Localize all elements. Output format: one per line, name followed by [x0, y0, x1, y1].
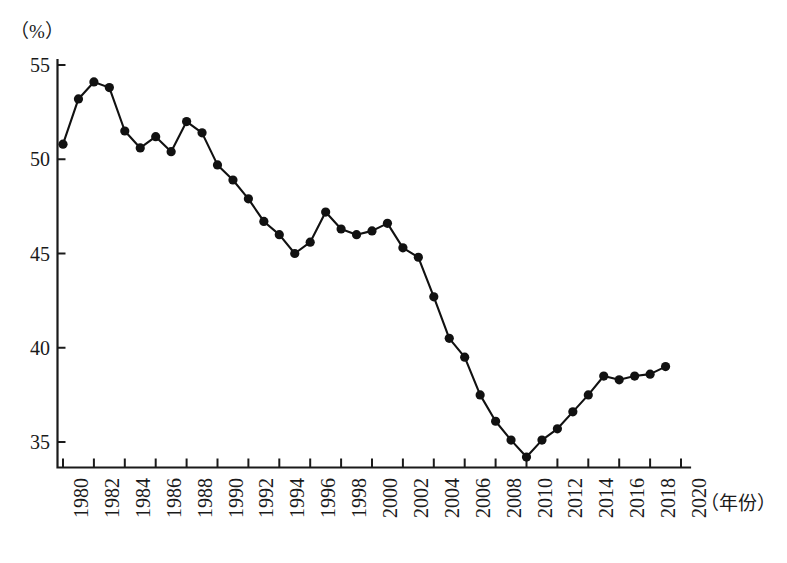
data-point: [120, 126, 129, 135]
data-point: [398, 243, 407, 252]
data-point: [661, 362, 670, 371]
chart-container: （%） 3540455055 1980198219841986198819901…: [0, 0, 787, 563]
data-point: [460, 353, 469, 362]
data-point: [414, 253, 423, 262]
data-point: [522, 452, 531, 461]
data-point: [58, 140, 67, 149]
chart-plot-area: [0, 0, 787, 563]
data-point: [367, 226, 376, 235]
data-point: [244, 194, 253, 203]
data-point: [275, 230, 284, 239]
data-point: [306, 238, 315, 247]
data-point: [136, 143, 145, 152]
data-point: [74, 94, 83, 103]
data-point: [599, 371, 608, 380]
data-point: [259, 217, 268, 226]
data-point: [584, 390, 593, 399]
data-point: [491, 417, 500, 426]
data-point: [615, 375, 624, 384]
data-point: [537, 436, 546, 445]
data-point: [151, 132, 160, 141]
data-point-markers: [58, 77, 670, 461]
data-point: [228, 175, 237, 184]
data-point: [352, 230, 361, 239]
data-point: [105, 83, 114, 92]
chart-axes: [58, 60, 691, 468]
data-point: [213, 160, 222, 169]
data-point: [337, 224, 346, 233]
data-point: [89, 77, 98, 86]
data-point: [630, 371, 639, 380]
data-point: [290, 249, 299, 258]
data-point: [429, 292, 438, 301]
data-point: [197, 128, 206, 137]
data-point: [568, 407, 577, 416]
data-point: [167, 147, 176, 156]
data-point: [445, 334, 454, 343]
data-point: [476, 390, 485, 399]
data-point: [321, 207, 330, 216]
data-point: [646, 370, 655, 379]
chart-tick-marks: [58, 65, 682, 468]
data-point: [553, 424, 562, 433]
data-point: [383, 219, 392, 228]
data-point: [506, 436, 515, 445]
data-point: [182, 117, 191, 126]
